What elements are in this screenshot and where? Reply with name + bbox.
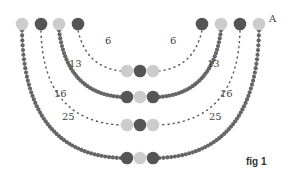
- center-bead: [147, 91, 160, 104]
- strand-1: [72, 18, 209, 78]
- strand-count-label: 13: [69, 58, 82, 69]
- strand-count-label: 13: [207, 58, 220, 69]
- top-bead: [215, 18, 228, 31]
- center-bead: [134, 91, 147, 104]
- strand-count-label: 16: [54, 88, 67, 99]
- figure-caption: fig 1: [246, 156, 267, 167]
- strand-count-label: 6: [170, 35, 176, 46]
- center-bead: [121, 152, 134, 165]
- top-bead: [234, 18, 247, 31]
- point-label-a: A: [268, 13, 277, 24]
- center-bead: [147, 119, 160, 132]
- strand-count-label: 6: [105, 35, 111, 46]
- center-bead: [121, 65, 134, 78]
- center-bead: [147, 65, 160, 78]
- strand-count-label: 16: [220, 88, 233, 99]
- center-bead: [147, 152, 160, 165]
- top-bead: [196, 18, 209, 31]
- center-bead: [121, 119, 134, 132]
- top-bead: [72, 18, 85, 31]
- center-bead: [134, 119, 147, 132]
- top-bead: [16, 18, 29, 31]
- strand-count-label: 25: [62, 111, 75, 122]
- center-bead: [134, 65, 147, 78]
- center-bead: [121, 91, 134, 104]
- strand-count-label: 25: [209, 111, 222, 122]
- center-bead: [134, 152, 147, 165]
- top-bead: [35, 18, 48, 31]
- top-bead: [253, 18, 266, 31]
- top-bead: [53, 18, 66, 31]
